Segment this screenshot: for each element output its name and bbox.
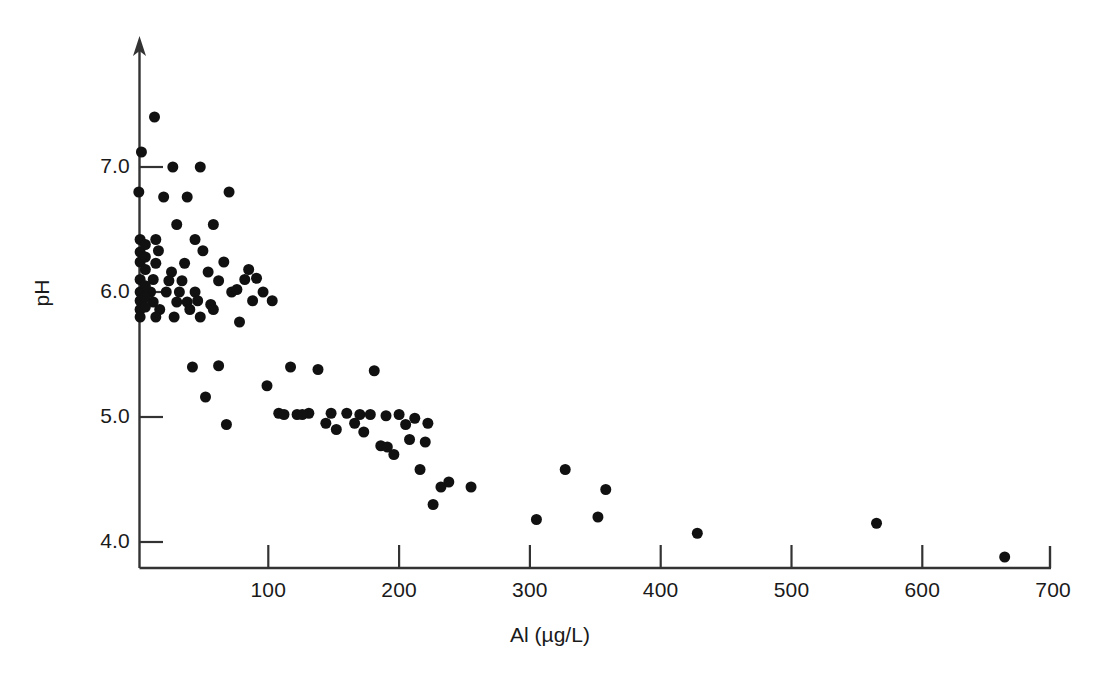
data-point (213, 360, 224, 371)
data-point (169, 312, 180, 323)
data-point (428, 499, 439, 510)
data-point (871, 518, 882, 529)
data-point (234, 317, 245, 328)
data-point (224, 187, 235, 198)
data-point (285, 362, 296, 373)
data-point (140, 252, 151, 263)
data-point (136, 147, 147, 158)
data-point (267, 295, 278, 306)
scatter-plot-figure: 4.05.06.07.0100200300400500600700 Al (µg… (0, 0, 1100, 680)
data-point (140, 239, 151, 250)
data-point (243, 264, 254, 275)
data-point (149, 112, 160, 123)
x-tick-label: 600 (882, 578, 962, 602)
x-axis-ticks (268, 545, 922, 568)
data-point (179, 258, 190, 269)
data-point (358, 427, 369, 438)
data-point (466, 482, 477, 493)
data-point (279, 409, 290, 420)
data-point (365, 409, 376, 420)
data-point (369, 365, 380, 376)
y-tick-label: 5.0 (60, 404, 130, 428)
data-point (600, 484, 611, 495)
data-point (381, 410, 392, 421)
data-point (140, 292, 151, 303)
x-tick-label: 500 (752, 578, 832, 602)
x-tick-label: 400 (621, 578, 701, 602)
data-point-markers (133, 112, 1010, 563)
data-point (176, 275, 187, 286)
data-point (221, 419, 232, 430)
data-point (692, 528, 703, 539)
data-point (163, 275, 174, 286)
data-point (388, 449, 399, 460)
data-point (161, 287, 172, 298)
x-tick-label: 100 (228, 578, 308, 602)
data-point (140, 280, 151, 291)
data-point (258, 287, 269, 298)
y-tick-label: 7.0 (60, 154, 130, 178)
y-tick-label: 4.0 (60, 529, 130, 553)
data-point (400, 419, 411, 430)
data-point (195, 162, 206, 173)
x-tick-label: 200 (359, 578, 439, 602)
y-axis-ticks (140, 167, 164, 542)
data-point (203, 267, 214, 278)
data-point (251, 273, 262, 284)
y-tick-label: 6.0 (60, 279, 130, 303)
data-point (297, 409, 308, 420)
data-point (195, 312, 206, 323)
data-point (182, 192, 193, 203)
data-point (208, 304, 219, 315)
data-point (341, 408, 352, 419)
data-point (200, 392, 211, 403)
data-point (192, 295, 203, 306)
data-point (184, 304, 195, 315)
data-point (435, 482, 446, 493)
y-axis-title: pH (17, 273, 67, 313)
data-point (174, 287, 185, 298)
data-point (208, 219, 219, 230)
data-point (592, 512, 603, 523)
data-point (135, 312, 146, 323)
data-point (320, 418, 331, 429)
data-point (313, 364, 324, 375)
data-point (422, 418, 433, 429)
data-point (213, 275, 224, 286)
data-point (349, 418, 360, 429)
data-point (420, 437, 431, 448)
data-point (150, 234, 161, 245)
data-point (218, 257, 229, 268)
data-point (247, 295, 258, 306)
x-tick-label: 300 (490, 578, 570, 602)
data-point (394, 409, 405, 420)
data-point (140, 264, 151, 275)
x-tick-label: 700 (1013, 578, 1093, 602)
data-point (150, 258, 161, 269)
data-point (404, 434, 415, 445)
data-point (133, 187, 144, 198)
data-point (187, 362, 198, 373)
data-point (239, 274, 250, 285)
data-point (415, 464, 426, 475)
x-axis-title: Al (µg/L) (0, 623, 1100, 647)
data-point (231, 284, 242, 295)
data-point (531, 514, 542, 525)
data-point (150, 312, 161, 323)
data-point (331, 424, 342, 435)
data-point (261, 380, 272, 391)
data-point (167, 162, 178, 173)
data-point (140, 302, 151, 313)
data-point (409, 413, 420, 424)
data-point (999, 552, 1010, 563)
data-point (171, 297, 182, 308)
data-point (158, 192, 169, 203)
data-point (153, 245, 164, 256)
x-axis (140, 546, 1052, 568)
data-point (326, 408, 337, 419)
data-point (560, 464, 571, 475)
data-point (190, 234, 201, 245)
data-point (197, 245, 208, 256)
data-point (171, 219, 182, 230)
